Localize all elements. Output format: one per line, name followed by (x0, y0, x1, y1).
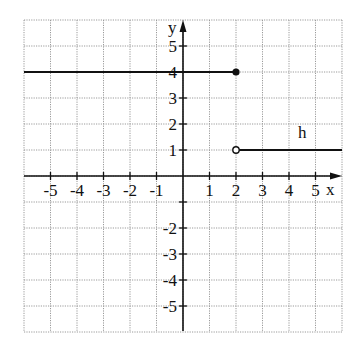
x-tick-label: -1 (149, 181, 163, 200)
x-tick-label: -3 (96, 181, 110, 200)
x-tick-label: 1 (205, 181, 214, 200)
x-axis-label: x (326, 180, 335, 199)
x-axis-arrow-icon (330, 173, 342, 180)
y-axis-label: y (168, 18, 177, 37)
x-tick-label: -4 (70, 181, 85, 200)
annotations: h (298, 123, 307, 142)
x-tick-label: -2 (123, 181, 137, 200)
function-label-h: h (298, 123, 307, 142)
y-tick-label: -2 (163, 219, 177, 238)
x-tick-label: 3 (258, 181, 267, 200)
x-tick-label: 5 (311, 181, 320, 200)
y-tick-label: 5 (169, 37, 178, 56)
open-endpoint-dot (233, 147, 239, 153)
y-tick-label: 3 (169, 89, 178, 108)
tick-labels: xy-5-4-3-2-11234554321-2-3-4-5 (43, 18, 335, 316)
y-tick-label: -4 (163, 271, 178, 290)
x-tick-label: -5 (43, 181, 57, 200)
y-tick-label: -5 (163, 297, 177, 316)
axes (24, 20, 342, 331)
y-tick-label: 2 (169, 115, 178, 134)
y-axis-arrow-icon (180, 20, 187, 32)
x-tick-label: 2 (232, 181, 241, 200)
closed-endpoint-dot (232, 68, 239, 75)
y-tick-label: -3 (163, 245, 177, 264)
function-graph: xy-5-4-3-2-11234554321-2-3-4-5 h (0, 0, 354, 344)
x-tick-label: 4 (285, 181, 294, 200)
y-tick-label: 1 (169, 141, 178, 160)
